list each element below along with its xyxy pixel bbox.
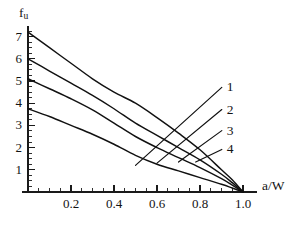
leader-line-1 (136, 87, 222, 165)
y-tick-label-1: 1 (6, 163, 22, 176)
y-tick-label-3: 3 (6, 118, 22, 131)
leader-line-4 (196, 149, 222, 162)
x-axis-title: a/W (262, 179, 285, 193)
y-tick-label-5: 5 (6, 74, 22, 87)
curve-label-2: 2 (227, 103, 234, 117)
x-tick-label-0.2: 0.2 (54, 197, 88, 210)
plot-canvas (0, 0, 304, 225)
leader-line-3 (179, 131, 222, 162)
curve-label-4: 4 (227, 142, 234, 156)
x-axis-ticks (39, 185, 243, 192)
y-tick-label-7: 7 (6, 30, 22, 43)
y-axis-title-subscript: u (24, 11, 29, 21)
curve-label-1: 1 (227, 80, 234, 94)
curve-group (28, 32, 243, 192)
annotation-leader-lines (136, 87, 222, 165)
y-axis-title-base: f (19, 5, 24, 20)
x-tick-label-0.8: 0.8 (183, 197, 217, 210)
curve-label-3: 3 (227, 124, 234, 138)
curve-3 (28, 79, 243, 192)
y-tick-label-2: 2 (6, 141, 22, 154)
y-axis-title: fu (19, 6, 28, 20)
x-tick-label-0.6: 0.6 (140, 197, 174, 210)
curve-4 (28, 109, 243, 192)
y-tick-label-4: 4 (6, 96, 22, 109)
x-tick-label-1.0: 1.0 (226, 197, 260, 210)
x-tick-label-0.4: 0.4 (97, 197, 131, 210)
curve-1 (28, 32, 243, 192)
y-tick-label-6: 6 (6, 52, 22, 65)
chart-figure: fu a/W 1234567 0.20.40.60.81.0 1234 (0, 0, 304, 225)
curve-2 (28, 59, 243, 192)
